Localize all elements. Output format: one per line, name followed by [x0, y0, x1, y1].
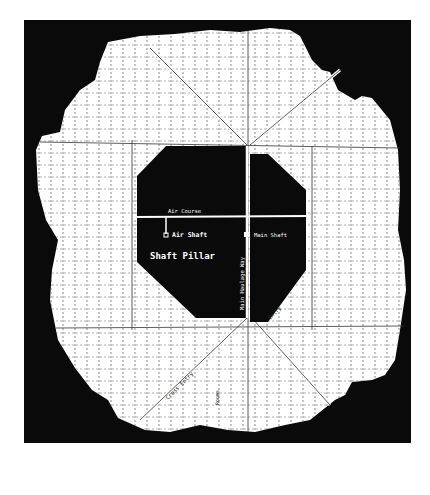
air-course-line — [134, 216, 310, 217]
rooms-label: Rooms — [214, 390, 220, 405]
air-course-label: Air Course — [168, 208, 201, 214]
main-haulage-way-label: Main Haulage Way — [239, 256, 246, 310]
mine-map: Air Course Air Shaft Main Shaft Shaft Pi… — [0, 0, 430, 495]
main-shaft-label: Main Shaft — [254, 232, 287, 238]
air-shaft-label: Air Shaft — [172, 231, 207, 239]
shaft-pillar-label: Shaft Pillar — [150, 251, 216, 261]
main-shaft-icon — [244, 232, 249, 237]
